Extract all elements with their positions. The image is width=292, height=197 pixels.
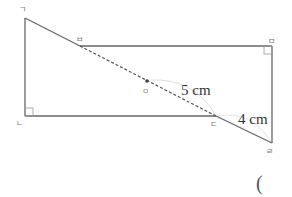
measurement-5cm: 5 cm (181, 82, 211, 98)
geometry-diagram: ㄱ ㄴ ㄷ ㄹ ㅁ ㅂ ㅇ 5 cm 4 cm ( (0, 0, 292, 197)
midpoint-dot (145, 79, 149, 83)
label-ieung: ㅇ (142, 87, 149, 96)
label-mieum: ㅁ (268, 37, 275, 46)
segment-giyeok-bieup (25, 18, 80, 46)
right-angle-marker-mieum (264, 46, 272, 54)
right-angle-marker-nieun (25, 108, 33, 116)
answer-blank-paren: ( (256, 172, 263, 195)
label-bieup: ㅂ (76, 35, 83, 44)
label-digeut: ㄷ (210, 120, 217, 129)
label-rieul: ㄹ (266, 147, 273, 156)
label-giyeok: ㄱ (19, 5, 26, 14)
measurement-4cm: 4 cm (238, 111, 268, 127)
label-nieun: ㄴ (16, 119, 23, 128)
